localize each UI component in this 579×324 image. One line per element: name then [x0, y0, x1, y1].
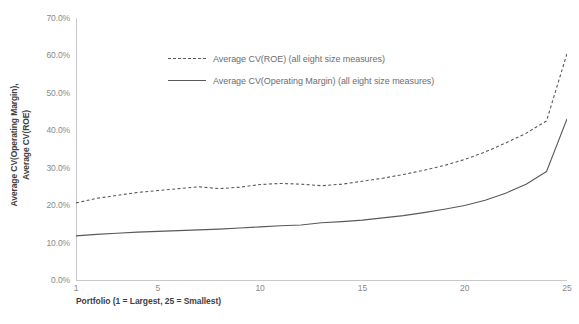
y-axis-tick-label: 50.0% — [26, 88, 70, 98]
legend-item-1: Average CV(Operating Margin) (all eight … — [168, 70, 498, 92]
legend-swatch-solid-icon — [168, 76, 206, 86]
y-axis-tick-label: 70.0% — [26, 13, 70, 23]
chart-legend: Average CV(ROE) (all eight size measures… — [168, 48, 498, 92]
x-axis-tick-label: 15 — [358, 283, 367, 293]
x-axis-line — [76, 280, 567, 281]
chart-container: Average CV(Operating Margin), Average CV… — [0, 0, 579, 324]
legend-label-0: Average CV(ROE) (all eight size measures… — [213, 54, 385, 64]
y-axis-tick-label: 30.0% — [26, 163, 70, 173]
legend-label-1: Average CV(Operating Margin) (all eight … — [213, 76, 434, 86]
y-axis-tick-label: 40.0% — [26, 125, 70, 135]
y-axis-tick-label: 10.0% — [26, 238, 70, 248]
x-axis-title: Portfolio (1 = Largest, 25 = Smallest) — [76, 296, 221, 306]
legend-swatch-dashed-icon — [168, 54, 206, 64]
y-axis-tick-labels: 0.0%10.0%20.0%30.0%40.0%50.0%60.0%70.0% — [26, 0, 70, 324]
x-axis-tick-labels: 1510152025 — [0, 283, 579, 297]
y-axis-tick-label: 60.0% — [26, 50, 70, 60]
series-line-average-cv-operating-margin — [76, 119, 567, 236]
x-axis-tick-label: 25 — [562, 283, 571, 293]
y-axis-title-line-1: Average CV(Operating Margin), — [8, 84, 20, 207]
legend-item-0: Average CV(ROE) (all eight size measures… — [168, 48, 498, 70]
x-axis-tick-label: 1 — [74, 283, 79, 293]
x-axis-tick-label: 5 — [155, 283, 160, 293]
x-axis-tick-label: 10 — [255, 283, 264, 293]
x-axis-tick-label: 20 — [460, 283, 469, 293]
y-axis-tick-label: 20.0% — [26, 200, 70, 210]
